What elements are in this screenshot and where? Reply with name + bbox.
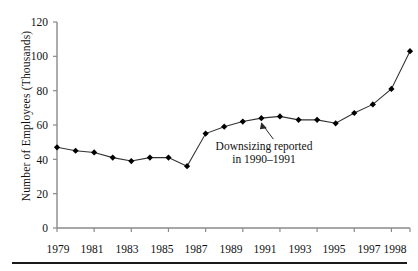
x-tick-label-1993: 1993 xyxy=(283,243,317,255)
data-point-1992 xyxy=(295,117,301,123)
figure-container: Number of Employees (Thousands) 120 100 … xyxy=(0,0,418,271)
bottom-divider-rule xyxy=(12,262,407,264)
data-point-1989 xyxy=(240,118,246,124)
x-tick-label-1983: 1983 xyxy=(110,243,144,255)
annotation-line-2: in 1990–1991 xyxy=(198,153,330,166)
data-point-1980 xyxy=(72,148,78,154)
x-tick-label-1981: 1981 xyxy=(75,243,109,255)
x-tick-label-1995: 1995 xyxy=(317,243,351,255)
data-point-1984 xyxy=(147,155,153,161)
plot-area xyxy=(0,0,418,271)
data-point-1990 xyxy=(258,115,264,121)
data-point-1988 xyxy=(221,124,227,130)
data-point-1985 xyxy=(165,155,171,161)
data-point-1993 xyxy=(314,117,320,123)
data-point-1986 xyxy=(184,163,190,169)
data-point-1987 xyxy=(203,130,209,136)
annotation-leader-line xyxy=(260,122,274,139)
x-tick-label-1989: 1989 xyxy=(214,243,248,255)
x-tick-label-1991: 1991 xyxy=(248,243,282,255)
data-point-1979 xyxy=(54,144,60,150)
data-point-1983 xyxy=(128,158,134,164)
x-tick-label-1985: 1985 xyxy=(145,243,179,255)
data-point-1998 xyxy=(407,48,413,54)
x-tick-label-1987: 1987 xyxy=(179,243,213,255)
data-point-1991 xyxy=(277,113,283,119)
annotation-line-1: Downsizing reported xyxy=(198,140,330,153)
data-point-1995 xyxy=(351,110,357,116)
x-tick-label-1979: 1979 xyxy=(41,243,75,255)
annotation-downsizing: Downsizing reported in 1990–1991 xyxy=(198,140,330,166)
data-point-1981 xyxy=(91,149,97,155)
data-point-1994 xyxy=(333,120,339,126)
x-tick-label-1998: 1998 xyxy=(378,243,412,255)
data-point-1982 xyxy=(110,155,116,161)
